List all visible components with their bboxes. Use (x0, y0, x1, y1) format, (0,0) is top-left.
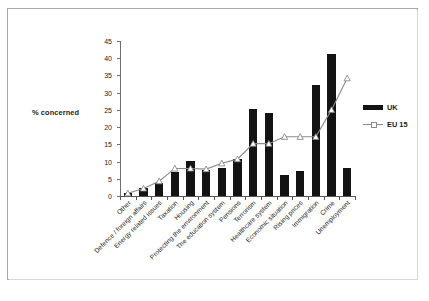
y-axis-tick-label: 45 (104, 38, 112, 45)
legend-swatch-bar-icon (363, 105, 383, 110)
y-axis-tick-label: 10 (104, 158, 112, 165)
legend-line-dash-icon (363, 124, 368, 125)
legend-label-uk: UK (387, 103, 398, 112)
line-series-eu15 (116, 35, 364, 205)
y-axis-tick-label: 20 (104, 124, 112, 131)
x-axis-labels: OtherDefence / foreign affairsEnergy rel… (120, 199, 370, 269)
y-axis-title: % concerned (32, 108, 79, 117)
y-axis-tick-label: 40 (104, 55, 112, 62)
y-axis-tick-label: 5 (108, 175, 112, 182)
plot-area: 051015202530354045 (120, 41, 355, 196)
y-axis-tick-label: 15 (104, 141, 112, 148)
legend-label-eu15: EU 15 (387, 120, 408, 129)
y-axis-tick-label: 25 (104, 106, 112, 113)
chart-screenshot: % concerned 051015202530354045 OtherDefe… (0, 0, 429, 301)
chart-legend: UK EU 15 (363, 103, 421, 133)
figure-frame: % concerned 051015202530354045 OtherDefe… (7, 8, 418, 280)
eu15-data-marker (344, 75, 350, 81)
eu15-data-marker (140, 185, 146, 191)
eu15-data-marker (328, 107, 334, 113)
legend-line-dash-icon (378, 124, 383, 125)
y-axis-tick-label: 35 (104, 72, 112, 79)
y-axis-tick-label: 30 (104, 89, 112, 96)
y-axis-tick-label: 0 (108, 193, 112, 200)
legend-line-marker-icon (371, 122, 377, 128)
